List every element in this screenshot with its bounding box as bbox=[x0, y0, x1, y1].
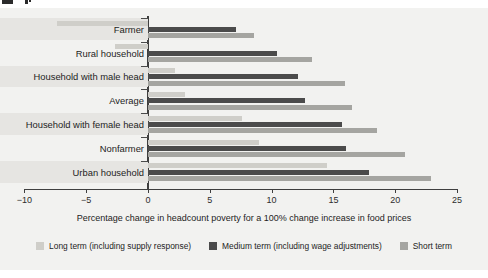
x-tick-mark bbox=[24, 189, 25, 193]
legend-label: Long term (including supply response) bbox=[49, 241, 191, 251]
category-label: Urban household bbox=[0, 167, 144, 178]
category-label: Nonfarmer bbox=[0, 143, 144, 154]
x-axis-line bbox=[24, 189, 457, 190]
x-tick-mark bbox=[457, 189, 458, 193]
legend-item[interactable]: Medium term (including wage adjustments) bbox=[209, 241, 382, 251]
page-crop-artifact-icon bbox=[25, 0, 28, 4]
x-tick-label: −10 bbox=[4, 195, 44, 205]
x-tick-label: 20 bbox=[375, 195, 415, 205]
bar-short-term bbox=[148, 33, 254, 38]
x-tick-label: 0 bbox=[128, 195, 168, 205]
category-tick bbox=[141, 89, 148, 90]
x-tick-label: 10 bbox=[252, 195, 292, 205]
bar-short-term bbox=[148, 128, 377, 133]
bar-medium-term bbox=[148, 146, 346, 151]
bar-medium-term bbox=[148, 170, 369, 175]
bar-long-term bbox=[148, 116, 242, 121]
category-tick bbox=[141, 42, 148, 43]
category-group: Urban household bbox=[0, 161, 488, 185]
x-tick-label: 15 bbox=[313, 195, 353, 205]
category-tick bbox=[141, 18, 148, 19]
bar-medium-term bbox=[148, 27, 236, 32]
x-axis-title: Percentage change in headcount poverty f… bbox=[0, 213, 488, 223]
legend-item[interactable]: Long term (including supply response) bbox=[36, 241, 191, 251]
bar-short-term bbox=[148, 105, 352, 110]
bar-medium-term bbox=[148, 51, 277, 56]
category-tick bbox=[141, 137, 148, 138]
x-tick-mark bbox=[272, 189, 273, 193]
bar-medium-term bbox=[148, 98, 305, 103]
x-tick-mark bbox=[395, 189, 396, 193]
category-label: Household with female head bbox=[0, 119, 144, 130]
category-group: Household with female head bbox=[0, 113, 488, 137]
category-label: Household with male head bbox=[0, 71, 144, 82]
legend-item[interactable]: Short term bbox=[400, 241, 452, 251]
category-tick bbox=[141, 161, 148, 162]
bar-short-term bbox=[148, 81, 345, 86]
bar-medium-term bbox=[148, 74, 298, 79]
bar-long-term bbox=[148, 68, 175, 73]
bar-short-term bbox=[148, 57, 312, 62]
bar-short-term bbox=[148, 176, 431, 181]
x-tick-mark bbox=[333, 189, 334, 193]
x-tick-label: 5 bbox=[190, 195, 230, 205]
bar-medium-term bbox=[148, 122, 342, 127]
legend-swatch-short-term-icon bbox=[400, 242, 408, 250]
legend-swatch-medium-term-icon bbox=[209, 242, 217, 250]
category-group: Average bbox=[0, 89, 488, 113]
bar-long-term bbox=[148, 92, 185, 97]
bar-long-term bbox=[115, 44, 148, 49]
plot-area: −10−50510152025 FarmerRural householdHou… bbox=[0, 8, 488, 190]
chart-figure: −10−50510152025 FarmerRural householdHou… bbox=[0, 0, 488, 278]
legend-swatch-long-term-icon bbox=[36, 242, 44, 250]
x-tick-mark bbox=[210, 189, 211, 193]
bar-long-term bbox=[148, 140, 259, 145]
category-group: Household with male head bbox=[0, 66, 488, 90]
x-tick-mark bbox=[86, 189, 87, 193]
category-tick bbox=[141, 66, 148, 67]
category-label: Average bbox=[0, 95, 144, 106]
category-tick bbox=[141, 113, 148, 114]
x-tick-label: −5 bbox=[66, 195, 106, 205]
category-group: Farmer bbox=[0, 18, 488, 42]
bar-short-term bbox=[148, 152, 405, 157]
bar-long-term bbox=[148, 163, 327, 168]
page-crop-artifact-icon bbox=[29, 0, 31, 2]
x-tick-label: 25 bbox=[437, 195, 477, 205]
category-group: Nonfarmer bbox=[0, 137, 488, 161]
page-crop-artifact-icon bbox=[2, 0, 13, 4]
category-group: Rural household bbox=[0, 42, 488, 66]
chart-legend: Long term (including supply response)Med… bbox=[0, 241, 488, 251]
x-tick-mark bbox=[148, 189, 149, 193]
bar-long-term bbox=[57, 21, 148, 26]
legend-label: Short term bbox=[413, 241, 452, 251]
legend-label: Medium term (including wage adjustments) bbox=[222, 241, 382, 251]
